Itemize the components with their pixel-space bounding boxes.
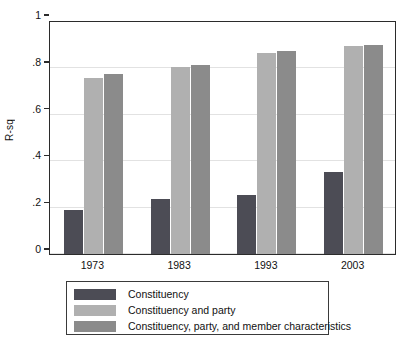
legend-item: Constituency xyxy=(67,287,328,302)
bar xyxy=(84,78,103,254)
y-tick-label: .2 xyxy=(32,196,44,208)
bar-group xyxy=(237,22,296,254)
y-tick-label: 1 xyxy=(35,9,44,21)
legend-item: Constituency and party xyxy=(67,303,328,318)
bar-group xyxy=(324,22,383,254)
bar xyxy=(151,199,170,254)
x-axis-tick-label: 1993 xyxy=(254,259,277,271)
bar xyxy=(237,195,256,254)
y-axis-tick: .8 xyxy=(32,56,49,68)
y-axis-tick: 1 xyxy=(35,9,49,21)
x-axis-tick-label: 1973 xyxy=(81,259,104,271)
bar-group xyxy=(64,22,123,254)
x-axis-tick-label: 2003 xyxy=(341,259,364,271)
legend-item: Constituency, party, and member characte… xyxy=(67,319,328,334)
bar-chart: R-sq 0.2.4.6.81 1973198319932003 Constit… xyxy=(0,0,408,352)
bar-group xyxy=(151,22,210,254)
bar xyxy=(104,74,123,254)
y-axis-tick: 0 xyxy=(35,243,49,255)
bar xyxy=(64,210,83,254)
x-axis-tick-label: 1983 xyxy=(167,259,190,271)
y-tick-label: .4 xyxy=(32,149,44,161)
y-axis-ticks: 0.2.4.6.81 xyxy=(20,21,49,255)
bar xyxy=(364,45,383,254)
legend-swatch xyxy=(74,289,116,300)
chart-legend: ConstituencyConstituency and partyConsti… xyxy=(66,281,329,335)
legend-swatch xyxy=(74,321,116,332)
y-axis-tick: .4 xyxy=(32,149,49,161)
y-axis-tick: .2 xyxy=(32,196,49,208)
y-tick-mark xyxy=(44,14,49,15)
y-tick-label: .8 xyxy=(32,56,44,68)
legend-swatch xyxy=(74,305,116,316)
bar xyxy=(277,51,296,254)
bar xyxy=(344,46,363,254)
legend-label: Constituency xyxy=(116,289,189,300)
y-tick-label: .6 xyxy=(32,103,44,115)
bar xyxy=(191,65,210,254)
plot-area xyxy=(49,21,396,255)
bar xyxy=(171,67,190,254)
bar-groups xyxy=(50,22,395,254)
y-axis-label: R-sq xyxy=(4,100,20,160)
legend-label: Constituency and party xyxy=(116,305,235,316)
y-axis-tick: .6 xyxy=(32,103,49,115)
bar xyxy=(257,53,276,254)
y-tick-label: 0 xyxy=(35,243,44,255)
legend-label: Constituency, party, and member characte… xyxy=(116,321,351,332)
x-axis-labels: 1973198319932003 xyxy=(49,256,396,276)
bar xyxy=(324,172,343,254)
